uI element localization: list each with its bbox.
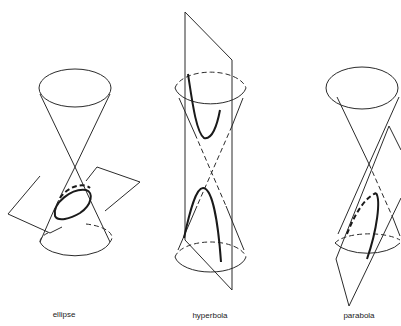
double-cone (175, 72, 246, 272)
double-cone (39, 69, 112, 256)
cutting-plane (8, 167, 140, 233)
double-cone (326, 67, 400, 253)
label-parabola: parabola (319, 311, 399, 320)
ellipse-section (55, 185, 91, 219)
cutting-plane (185, 12, 232, 290)
parabola-panel (326, 67, 401, 306)
conic-sections-diagram (0, 0, 401, 326)
hyperbola-lower-branch (184, 188, 221, 262)
label-ellipse: ellipse (24, 310, 104, 319)
label-hyperbola: hyperbola (170, 311, 250, 320)
ellipse-panel (8, 69, 140, 256)
hyperbola-panel (175, 12, 246, 290)
